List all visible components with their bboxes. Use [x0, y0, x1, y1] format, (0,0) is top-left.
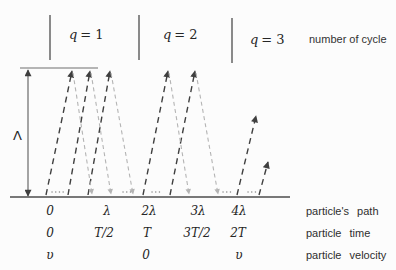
cycle-label-3: q= 3	[250, 32, 285, 47]
path-row-label: particle's path	[306, 205, 379, 217]
cycle-label-2: q= 2	[163, 27, 198, 42]
velocity-value-0: υ	[46, 248, 53, 262]
descent-line-3	[111, 73, 133, 194]
descent-line-4	[169, 73, 189, 194]
velocity-row-label: particle velocity	[306, 249, 386, 261]
velocity-value-1: 0	[142, 248, 150, 262]
time-value-3: 3T/2	[183, 226, 210, 240]
descent-line-2	[91, 73, 111, 194]
velocity-value-2: υ	[235, 248, 242, 262]
path-value-1: λ	[103, 204, 111, 218]
descent-line-5	[196, 73, 218, 194]
number-of-cycle-caption: number of cycle	[309, 33, 387, 45]
cycle-symbol: q	[163, 27, 171, 42]
ascent-line-7-partial	[259, 162, 268, 195]
cycle-symbol: q	[69, 27, 77, 42]
path-value-3: 3λ	[190, 204, 205, 218]
ascent-line-6-partial	[237, 116, 256, 195]
time-value-4: 2T	[230, 226, 246, 240]
path-value-2: 2λ	[141, 204, 156, 218]
ascent-line-3	[88, 71, 110, 195]
cycle-value: = 2	[174, 27, 197, 42]
path-value-0: 0	[46, 204, 54, 218]
wave-cycle-diagram: q= 1 q= 2 q= 3 number of cycle Λ 0 λ 2λ …	[0, 0, 396, 270]
descent-line-1	[73, 73, 92, 194]
time-value-1: T/2	[94, 226, 114, 240]
ascent-line-5	[170, 71, 195, 195]
cycle-value: = 3	[261, 32, 284, 47]
cycle-symbol: q	[250, 32, 258, 47]
amplitude-label: Λ	[13, 128, 22, 143]
time-value-2: T	[143, 226, 151, 240]
path-value-4: 4λ	[231, 204, 246, 218]
time-row-label: particle time	[306, 227, 370, 239]
time-value-0: 0	[46, 226, 54, 240]
cycle-value: = 1	[80, 27, 103, 42]
ascent-line-1	[46, 71, 72, 195]
cycle-label-1: q= 1	[69, 27, 104, 42]
ascent-line-4	[143, 71, 168, 195]
ascent-line-2	[68, 71, 90, 195]
